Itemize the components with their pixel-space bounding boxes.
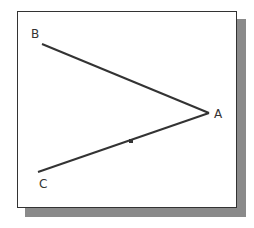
point-label-a: A [214,108,222,120]
segment-ca [38,113,209,172]
midpoint-marker [129,139,133,143]
segment-ba [42,44,209,113]
point-label-b: B [31,28,39,40]
point-label-c: C [39,178,47,190]
